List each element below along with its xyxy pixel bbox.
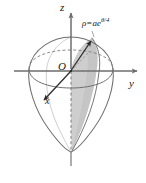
- axis-label-x: x: [45, 96, 49, 106]
- equation-leader-line: [92, 31, 94, 37]
- spiral-equation-label: ρ=aeθ/4: [82, 19, 109, 28]
- spiral-sector-shaded: [71, 38, 98, 151]
- axis-label-z: z: [60, 2, 64, 13]
- figure-canvas: [0, 0, 146, 183]
- equation-base-term: ae: [92, 18, 101, 28]
- origin-point: [70, 70, 72, 72]
- origin-label: O: [58, 61, 66, 72]
- axis-label-y: y: [129, 78, 134, 89]
- spiral-surface-figure: z y x O ρ=aeθ/4: [0, 0, 146, 183]
- equation-exponent-term: θ/4: [101, 16, 109, 23]
